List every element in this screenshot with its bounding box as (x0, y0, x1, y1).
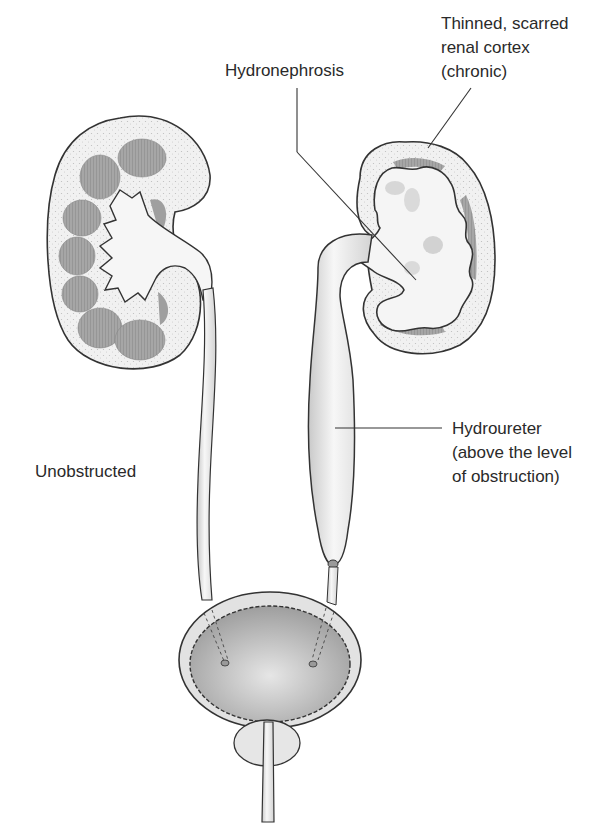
dilated-ureter (308, 234, 372, 565)
urinary-tract-illustration (0, 0, 608, 832)
hydronephrotic-kidney (350, 142, 495, 354)
label-cortex-line1: Thinned, scarred (441, 13, 569, 34)
urethra (262, 722, 274, 822)
label-hydroureter-line2: (above the level (452, 442, 572, 463)
label-unobstructed: Unobstructed (35, 461, 136, 482)
label-cortex-line3: (chronic) (441, 61, 507, 82)
diagram-canvas: Hydronephrosis Thinned, scarred renal co… (0, 0, 608, 832)
bladder (179, 592, 361, 728)
label-cortex-line2: renal cortex (441, 37, 530, 58)
label-hydroureter-line3: of obstruction) (452, 466, 560, 487)
normal-ureter (197, 288, 216, 600)
normal-kidney (47, 116, 212, 369)
leader-cortex (428, 88, 471, 148)
label-hydroureter-line1: Hydroureter (452, 418, 542, 439)
label-hydronephrosis: Hydronephrosis (225, 60, 344, 81)
